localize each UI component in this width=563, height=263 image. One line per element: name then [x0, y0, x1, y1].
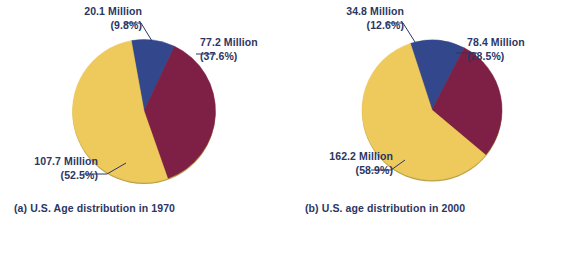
chart-caption-a: (a) U.S. Age distribution in 1970: [14, 201, 175, 215]
pie-chart-panel-a: 20.1 Million (9.8%)77.2 Million (37.6%)1…: [0, 0, 281, 263]
slice-value-yellow-b: 162.2 Million: [297, 150, 393, 164]
slice-value-red-a: 77.2 Million: [200, 36, 284, 50]
slice-value-blue-b: 34.8 Million: [308, 5, 404, 19]
slice-label-blue-b: 34.8 Million (12.6%): [308, 5, 404, 32]
slice-label-yellow-b: 162.2 Million (58.9%): [297, 150, 393, 177]
pie-chart-panel-b: 34.8 Million (12.6%)78.4 Million (28.5%)…: [281, 0, 562, 263]
slice-label-red-a: 77.2 Million (37.6%): [200, 36, 284, 63]
slice-percent-red-b: (28.5%): [467, 50, 551, 64]
slice-percent-blue-b: (12.6%): [308, 19, 404, 33]
slice-label-yellow-a: 107.7 Million (52.5%): [2, 155, 98, 182]
slice-percent-red-a: (37.6%): [200, 50, 284, 64]
chart-caption-b: (b) U.S. age distribution in 2000: [305, 201, 465, 215]
slice-percent-yellow-a: (52.5%): [2, 169, 98, 183]
slice-label-blue-a: 20.1 Million (9.8%): [46, 5, 142, 32]
slice-value-yellow-a: 107.7 Million: [2, 155, 98, 169]
slice-percent-yellow-b: (58.9%): [297, 164, 393, 178]
figure-two-pie-charts: 20.1 Million (9.8%)77.2 Million (37.6%)1…: [0, 0, 563, 263]
slice-percent-blue-a: (9.8%): [46, 19, 142, 33]
slice-value-red-b: 78.4 Million: [467, 36, 551, 50]
slice-value-blue-a: 20.1 Million: [46, 5, 142, 19]
slice-label-red-b: 78.4 Million (28.5%): [467, 36, 551, 63]
